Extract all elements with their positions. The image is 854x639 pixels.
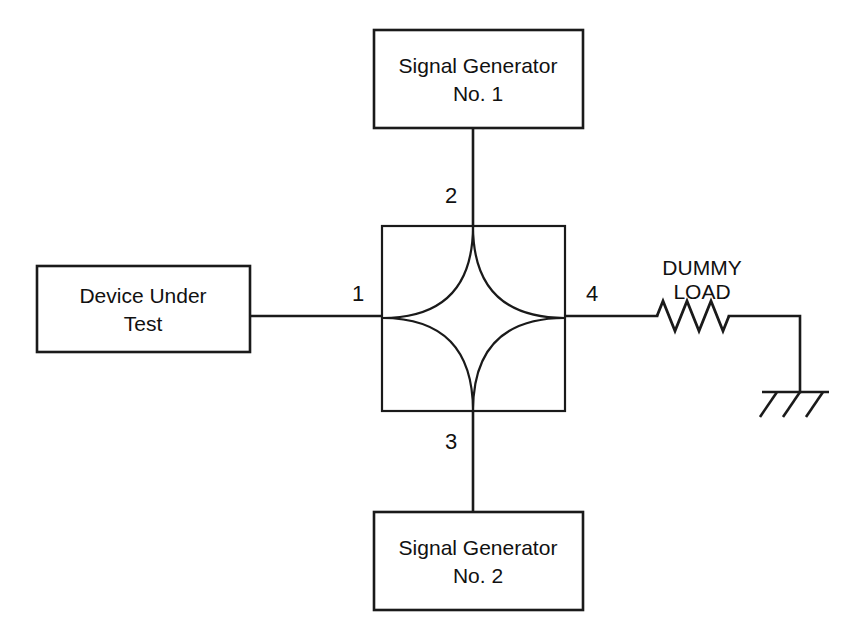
port-label-2: 2 [445, 183, 457, 208]
device-under-test-label-line2: Test [124, 312, 163, 335]
ground-symbol [760, 392, 829, 417]
diagram-canvas: Signal Generator No. 1 Signal Generator … [0, 0, 854, 639]
signal-generator-1-label-line1: Signal Generator [399, 54, 558, 77]
signal-generator-2-label-line2: No. 2 [453, 564, 503, 587]
signal-generator-2-box [374, 512, 583, 610]
port-label-4: 4 [586, 281, 598, 306]
signal-generator-1-label-line2: No. 1 [453, 82, 503, 105]
signal-generator-2-label-line1: Signal Generator [399, 536, 558, 559]
port-label-3: 3 [445, 429, 457, 454]
device-under-test-block: Device Under Test [37, 266, 250, 352]
hybrid-coupler [382, 226, 565, 411]
device-under-test-box [37, 266, 250, 352]
wire-load-to-ground [729, 316, 800, 392]
device-under-test-label-line1: Device Under [79, 284, 206, 307]
ground-hatch-1 [760, 392, 777, 417]
signal-generator-1-block: Signal Generator No. 1 [374, 30, 583, 128]
ground-hatch-3 [806, 392, 823, 417]
signal-generator-2-block: Signal Generator No. 2 [374, 512, 583, 610]
dummy-load-label-line1: DUMMY [662, 256, 741, 279]
signal-generator-1-box [374, 30, 583, 128]
hybrid-coupler-square [382, 226, 565, 411]
port-label-1: 1 [352, 281, 364, 306]
resistor-icon [657, 301, 729, 331]
dummy-load-label-line2: LOAD [673, 280, 730, 303]
dummy-load-block: DUMMY LOAD [657, 256, 742, 331]
ground-hatch-2 [783, 392, 800, 417]
diagram-svg: Signal Generator No. 1 Signal Generator … [0, 0, 854, 639]
